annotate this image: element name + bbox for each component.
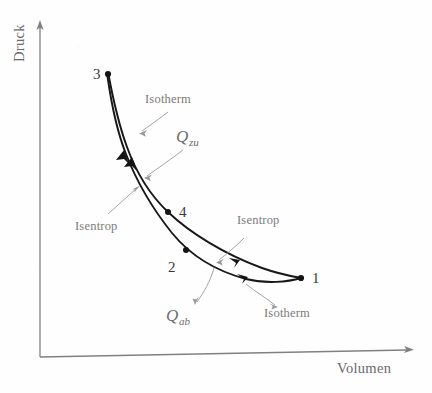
heat-output-symbol: Q (166, 306, 178, 325)
annotation-heat-output: Q ab (166, 306, 191, 327)
annotation-isotherm-bottom: Isotherm (264, 306, 310, 320)
state-dot-1 (298, 275, 304, 281)
annotation-heat-input: Q zu (176, 127, 199, 148)
leader-isentrop-left (108, 188, 137, 214)
heat-input-subscript: zu (188, 136, 199, 148)
leader-isentrop-right (219, 238, 244, 260)
leader-isotherm-top (142, 112, 168, 131)
state-label-4: 4 (179, 204, 187, 220)
flow-arrow-upper-right (229, 258, 240, 268)
annotation-isentrop-right: Isentrop (237, 213, 280, 227)
state-dot-2 (183, 247, 189, 253)
state-label-1: 1 (312, 270, 320, 286)
leader-head-isotherm-top (139, 130, 147, 137)
annotation-isotherm-top: Isotherm (145, 92, 191, 106)
y-axis-label: Druck (11, 24, 27, 62)
annotation-isentrop-left: Isentrop (75, 219, 118, 233)
leader-isotherm-bottom (246, 284, 275, 305)
leader-heat-output (197, 268, 214, 302)
upper-process-curve (109, 75, 302, 279)
state-dot-3 (105, 71, 111, 77)
state-label-2: 2 (168, 259, 176, 275)
heat-input-symbol: Q (176, 127, 188, 146)
state-dot-4 (165, 209, 171, 215)
lower-process-curve (108, 77, 302, 282)
leader-head-isentrop-right (216, 259, 224, 266)
x-axis-line (40, 350, 407, 357)
leader-heat-input (147, 150, 183, 176)
pv-diagram: Druck Volumen 3 4 2 1 Isotherm Isentrop … (0, 0, 432, 393)
figure-canvas: Druck Volumen 3 4 2 1 Isotherm Isentrop … (0, 0, 432, 393)
heat-output-subscript: ab (179, 315, 191, 327)
x-axis-label: Volumen (337, 360, 392, 376)
process-curves-group (108, 75, 302, 282)
state-label-3: 3 (93, 66, 101, 82)
